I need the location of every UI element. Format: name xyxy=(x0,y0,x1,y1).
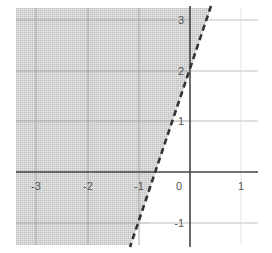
y-tick-label: 1 xyxy=(178,115,184,127)
y-tick-label: 2 xyxy=(178,65,184,77)
x-tick-label: 1 xyxy=(238,180,244,192)
x-tick-label: -3 xyxy=(31,180,41,192)
inequality-graph: -3 -2 -1 0 1 -1 1 2 3 xyxy=(0,0,272,253)
x-tick-label: -1 xyxy=(134,180,144,192)
x-tick-label: 0 xyxy=(176,180,182,192)
y-tick-label: -1 xyxy=(174,217,184,229)
x-tick-label: -2 xyxy=(83,180,93,192)
y-tick-label: 3 xyxy=(178,14,184,26)
